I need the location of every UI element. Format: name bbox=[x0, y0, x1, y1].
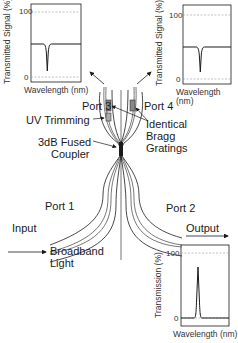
port-3-label: Port 3 bbox=[82, 100, 111, 112]
br-ytick-0: 0 bbox=[174, 314, 178, 323]
diagram-canvas bbox=[0, 0, 238, 343]
tl-ytick-0: 0 bbox=[24, 73, 28, 82]
port-2-label: Port 2 bbox=[166, 202, 195, 214]
tr-ylabel: Transmitted Signal (%) bbox=[154, 0, 164, 86]
coupler-label-line2: Coupler bbox=[51, 148, 90, 160]
output-label: Output bbox=[186, 222, 219, 234]
input-label: Input bbox=[12, 222, 36, 234]
tr-xlabel: Wavelength (nm) bbox=[176, 88, 238, 106]
tr-ytick-0: 0 bbox=[176, 75, 180, 84]
tr-ytick-100: 100 bbox=[169, 11, 182, 20]
bragg-grating-right bbox=[130, 100, 135, 111]
gratings-label-line1: Identical bbox=[146, 118, 187, 130]
broadband-label-line2: Light bbox=[50, 257, 74, 269]
plot-top-left bbox=[31, 4, 81, 82]
uv-trimming-section bbox=[106, 113, 111, 121]
br-ylabel: Transmission (%) bbox=[153, 252, 163, 318]
br-ytick-100: 100 bbox=[166, 249, 179, 258]
port-1-label: Port 1 bbox=[45, 200, 74, 212]
arrow-to-top-right-plot bbox=[137, 72, 151, 84]
uv-trimming-label: UV Trimming bbox=[26, 114, 90, 126]
tl-ytick-100: 100 bbox=[19, 7, 32, 16]
plot-bottom-right bbox=[181, 245, 229, 326]
tl-ylabel: Transmitted Signal (%) bbox=[2, 0, 12, 84]
gratings-label-line3: Gratings bbox=[146, 142, 188, 154]
tl-xlabel: Wavelength (nm) bbox=[24, 86, 88, 95]
br-xlabel: Wavelength (nm) bbox=[173, 330, 237, 339]
port-4-label: Port 4 bbox=[144, 100, 173, 112]
gratings-label-line2: Bragg bbox=[146, 130, 175, 142]
plot-top-right bbox=[183, 5, 231, 84]
broadband-label-line1: Broadband bbox=[50, 245, 104, 257]
arrow-to-top-left-plot bbox=[90, 72, 104, 84]
coupler-label-line1: 3dB Fused bbox=[38, 136, 91, 148]
